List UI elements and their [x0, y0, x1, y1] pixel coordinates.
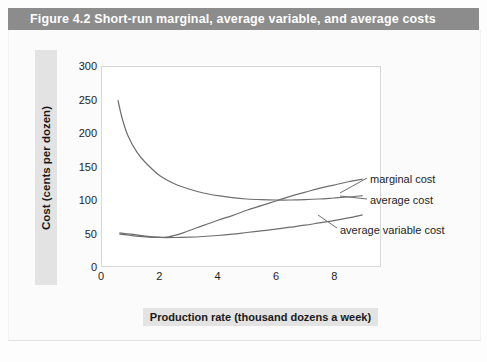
- curve-label-marginal-cost: marginal cost: [370, 173, 435, 185]
- x-tick-label: 2: [156, 270, 162, 282]
- x-tick-label: 8: [331, 270, 337, 282]
- y-axis-label: Cost (cents per dozen): [35, 50, 57, 285]
- x-tick-label: 4: [215, 270, 221, 282]
- figure-title-bar: Figure 4.2 Short-run marginal, average v…: [8, 8, 479, 30]
- y-axis-ticks: 050100150200250300: [55, 66, 97, 267]
- y-tick-label: 300: [57, 60, 97, 72]
- y-tick-label: 150: [57, 161, 97, 173]
- curve-label-average-variable-cost: average variable cost: [340, 224, 445, 236]
- curve-average-variable-cost: [119, 215, 362, 238]
- x-axis-ticks: 02468: [101, 270, 381, 290]
- y-axis-label-text: Cost (cents per dozen): [40, 106, 52, 230]
- curve-marginal-cost: [119, 179, 362, 237]
- y-tick-label: 250: [57, 94, 97, 106]
- x-tick-label: 6: [273, 270, 279, 282]
- x-tick-label: 0: [98, 270, 104, 282]
- plot-area: [101, 66, 381, 267]
- y-tick-label: 0: [57, 261, 97, 273]
- figure-container: Figure 4.2 Short-run marginal, average v…: [0, 0, 487, 362]
- figure-title: Figure 4.2 Short-run marginal, average v…: [8, 12, 436, 26]
- y-tick-label: 200: [57, 127, 97, 139]
- page-bleed-text: [0, 352, 487, 362]
- curves-svg: [102, 67, 380, 266]
- y-tick-label: 100: [57, 194, 97, 206]
- y-tick-label: 50: [57, 228, 97, 240]
- x-axis-label: Production rate (thousand dozens a week): [143, 308, 378, 326]
- curve-average-cost: [118, 100, 363, 200]
- curve-label-average-cost: average cost: [370, 194, 433, 206]
